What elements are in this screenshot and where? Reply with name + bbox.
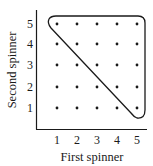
y-tick-5: 5: [27, 17, 33, 31]
y-tick-4: 4: [27, 37, 33, 51]
x-tick-5: 5: [134, 133, 140, 147]
y-tick-1: 1: [27, 101, 33, 115]
x-axis-title: First spinner: [61, 150, 125, 164]
y-tick-2: 2: [27, 80, 33, 94]
x-tick-4: 4: [114, 133, 120, 147]
x-tick-2: 2: [74, 133, 80, 147]
outcome-dots: [56, 23, 139, 110]
x-tick-labels: 1 2 3 4 5: [54, 133, 140, 147]
y-tick-labels: 5 4 3 2 1: [27, 17, 33, 115]
x-tick-3: 3: [94, 133, 100, 147]
sum-at-least-six-region: [48, 16, 145, 118]
spinner-sample-space-diagram: 5 4 3 2 1 1 2 3 4 5 First spinner Second…: [0, 0, 153, 166]
y-axis-title: Second spinner: [5, 31, 19, 109]
y-tick-3: 3: [27, 58, 33, 72]
x-tick-1: 1: [54, 133, 60, 147]
